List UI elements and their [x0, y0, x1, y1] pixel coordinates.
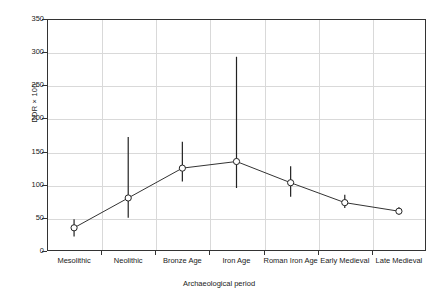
data-point-marker	[342, 200, 348, 206]
data-point-marker	[288, 180, 294, 186]
data-point-marker	[179, 165, 185, 171]
chart-container: DDR × 100 050100150200250300350 Mesolith…	[0, 0, 438, 298]
data-point-marker	[396, 208, 402, 214]
data-series-layer	[0, 0, 438, 298]
data-point-marker	[71, 225, 77, 231]
x-axis-title: Archaeological period	[0, 279, 438, 288]
data-point-marker	[125, 195, 131, 201]
error-bars-group	[74, 57, 399, 237]
data-point-marker	[233, 158, 239, 164]
